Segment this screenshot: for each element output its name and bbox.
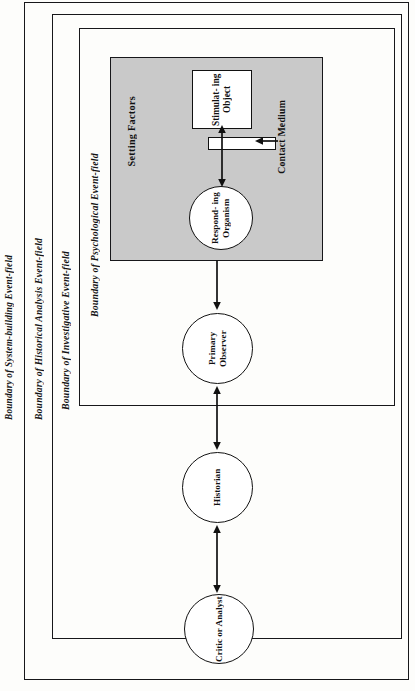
node-critic-or-analyst: Critic or Analyst <box>184 594 254 664</box>
diagram-canvas: Boundary of System-building Event-field … <box>0 0 415 691</box>
arrow-organism-to-stimulating-object <box>216 125 228 187</box>
node-responding-organism: Respond- ing Organism <box>189 186 253 250</box>
node-stimulating-object-label: Stimulat- ing Object <box>193 71 251 128</box>
arrow-primary-observer-to-historian <box>211 386 223 450</box>
node-historian: Historian <box>182 452 253 523</box>
node-historian-label: Historian <box>183 453 252 522</box>
label-boundary-system-building: Boundary of System-building Event-field <box>4 0 14 420</box>
node-primary-observer-label: Primary Observer <box>183 314 252 383</box>
arrow-contact-medium-pointer <box>255 134 279 148</box>
label-boundary-historical-analysis: Boundary of Historical Analysis Event-fi… <box>33 0 44 420</box>
node-primary-observer: Primary Observer <box>182 313 253 384</box>
label-setting-factors: Setting Factors <box>126 96 137 166</box>
arrow-field-to-primary-observer <box>211 260 223 310</box>
node-critic-or-analyst-label: Critic or Analyst <box>185 595 253 663</box>
node-responding-organism-label: Respond- ing Organism <box>190 187 252 249</box>
label-boundary-psychological: Boundary of Psychological Event-field <box>89 57 100 317</box>
label-boundary-investigative: Boundary of Investigative Event-field <box>60 30 71 410</box>
arrow-historian-to-critic <box>211 525 223 593</box>
node-stimulating-object: Stimulat- ing Object <box>192 70 252 129</box>
